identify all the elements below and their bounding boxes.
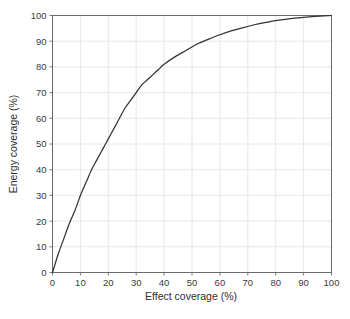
y-tick-label: 80 bbox=[36, 61, 47, 72]
x-tick-label: 50 bbox=[187, 277, 198, 288]
y-axis-title: Energy coverage (%) bbox=[7, 95, 19, 194]
x-tick-label: 80 bbox=[270, 277, 281, 288]
y-tick-label: 10 bbox=[36, 241, 47, 252]
x-tick-label: 60 bbox=[215, 277, 226, 288]
x-tick-label: 70 bbox=[243, 277, 254, 288]
y-tick-label: 50 bbox=[36, 138, 47, 149]
x-tick-label: 20 bbox=[103, 277, 114, 288]
x-tick-label: 90 bbox=[298, 277, 309, 288]
y-tick-label: 30 bbox=[36, 190, 47, 201]
x-axis-title: Effect coverage (%) bbox=[145, 290, 237, 302]
x-tick-label: 10 bbox=[75, 277, 86, 288]
x-tick-label: 100 bbox=[324, 277, 340, 288]
y-tick-label: 20 bbox=[36, 216, 47, 227]
x-tick-label: 40 bbox=[159, 277, 170, 288]
x-tick-label: 30 bbox=[131, 277, 142, 288]
y-tick-label: 100 bbox=[31, 10, 47, 21]
y-tick-label: 0 bbox=[41, 267, 46, 278]
chart-figure: 0102030405060708090100 01020304050607080… bbox=[0, 0, 350, 319]
y-tick-label: 60 bbox=[36, 113, 47, 124]
x-tick-label: 0 bbox=[50, 277, 55, 288]
y-tick-label: 70 bbox=[36, 87, 47, 98]
y-tick-label: 40 bbox=[36, 164, 47, 175]
chart-canvas: 0102030405060708090100 01020304050607080… bbox=[0, 0, 350, 319]
y-tick-label: 90 bbox=[36, 36, 47, 47]
